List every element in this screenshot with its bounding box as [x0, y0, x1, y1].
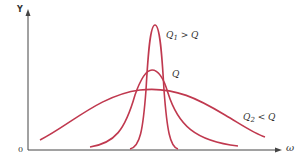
- y-axis-label: Y: [17, 6, 23, 14]
- x-axis-arrow-icon: [275, 148, 282, 153]
- y-axis-arrow-icon: [26, 9, 31, 16]
- label-q2-rest: < Q: [255, 112, 276, 122]
- label-q-main: Q: [172, 69, 179, 79]
- curve-q2-broad: [40, 89, 265, 140]
- label-q1: Q1 > Q: [166, 31, 199, 42]
- label-q2: Q2 < Q: [243, 113, 276, 124]
- label-q1-rest: > Q: [178, 30, 199, 40]
- x-axis-label: ω: [286, 143, 294, 153]
- origin-label: 0: [18, 146, 23, 154]
- label-q: Q: [172, 70, 179, 79]
- resonance-diagram: [0, 0, 297, 160]
